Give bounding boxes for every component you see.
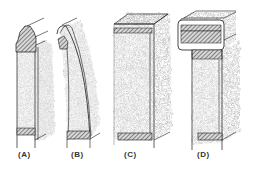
panel-a-diagram <box>16 18 55 148</box>
panel-b-label: (B) <box>71 150 84 159</box>
cross-section-figure <box>0 0 263 174</box>
panel-d-label: (D) <box>197 150 210 159</box>
panel-a-label: (A) <box>18 150 31 159</box>
panel-d-diagram <box>178 11 240 150</box>
panel-b-diagram <box>57 18 100 148</box>
panel-c-label: (C) <box>124 150 137 159</box>
panel-c-diagram <box>114 13 172 148</box>
